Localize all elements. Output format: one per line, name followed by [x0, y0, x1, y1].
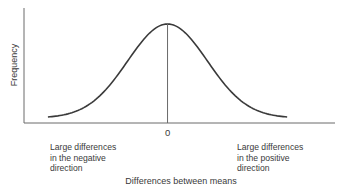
- x-axis-label: Differences between means: [125, 176, 237, 186]
- x-tick-label-zero: 0: [165, 127, 170, 138]
- y-axis-label: Frequency: [9, 43, 19, 86]
- annotation-negative-line: Large differences: [50, 142, 116, 152]
- annotation-positive-line: direction: [237, 163, 270, 173]
- annotation-positive: Large differences in the positive direct…: [237, 142, 306, 173]
- annotation-negative-line: in the negative: [50, 153, 106, 163]
- normal-distribution-chart: Frequency 0 Large differences in the neg…: [0, 0, 344, 187]
- annotation-positive-line: Large differences: [237, 142, 303, 152]
- annotation-negative-line: direction: [50, 163, 83, 173]
- annotation-negative: Large differences in the negative direct…: [50, 142, 119, 173]
- annotation-positive-line: in the positive: [237, 153, 290, 163]
